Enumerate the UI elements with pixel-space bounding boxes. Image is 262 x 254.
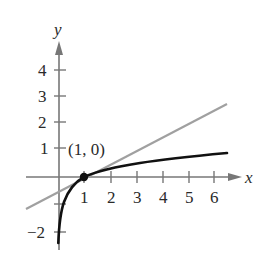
x-tick-label: 3	[133, 188, 142, 207]
x-axis-arrow-icon	[228, 173, 242, 181]
x-tick-label: 2	[107, 188, 116, 207]
y-tick-label: −2	[27, 223, 45, 242]
y-tick-label: 1	[40, 139, 49, 158]
point-annotation: (1, 0)	[68, 140, 105, 159]
y-axis-label: y	[52, 20, 62, 39]
y-ticks	[54, 70, 66, 232]
y-axis-arrow-icon	[55, 41, 63, 55]
x-tick-label: 5	[185, 188, 194, 207]
x-axis-label: x	[244, 168, 253, 187]
point-marker	[80, 173, 88, 181]
y-tick-label: 4	[38, 61, 47, 80]
x-tick-label: 6	[210, 188, 219, 207]
chart: y x 4 3 2 1 −2 1 2 3 4 5 6 (1, 0)	[0, 0, 262, 254]
x-tick-label: 1	[80, 188, 89, 207]
y-tick-label: 3	[38, 87, 47, 106]
y-tick-label: 2	[38, 113, 47, 132]
x-tick-label: 4	[159, 188, 168, 207]
